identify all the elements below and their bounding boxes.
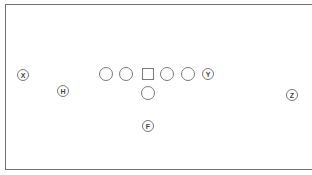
quarterback-marker (141, 86, 155, 100)
player-x-marker: X (17, 69, 29, 81)
right-guard-marker (160, 67, 174, 81)
player-f-label: F (146, 123, 150, 130)
player-f-marker: F (142, 120, 154, 132)
player-z-label: Z (290, 92, 294, 99)
player-h-label: H (60, 88, 65, 95)
player-y-marker: Y (202, 68, 214, 80)
player-y-label: Y (206, 71, 211, 78)
player-z-marker: Z (286, 89, 298, 101)
player-x-label: X (21, 72, 26, 79)
player-h-marker: H (57, 85, 69, 97)
center-square-marker (142, 68, 154, 80)
formation-field-border (5, 4, 312, 170)
left-tackle-marker (99, 67, 113, 81)
right-tackle-marker (181, 67, 195, 81)
left-guard-marker (119, 67, 133, 81)
